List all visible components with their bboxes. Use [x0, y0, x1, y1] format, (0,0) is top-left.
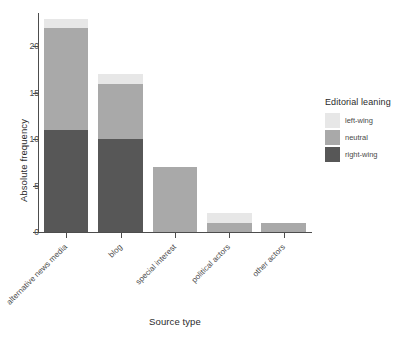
legend-swatch-right-wing [325, 147, 340, 162]
x-tick-label-text: alternative news media [5, 242, 69, 306]
x-tick-mark [175, 233, 176, 238]
bar-group[interactable] [98, 14, 143, 232]
bar-segment-neutral[interactable] [261, 223, 306, 232]
legend: Editorial leaning left-wingneutralright-… [325, 97, 403, 164]
bar-segment-right-wing[interactable] [44, 130, 89, 232]
legend-swatch-left-wing [325, 113, 340, 128]
legend-item[interactable]: left-wing [325, 113, 403, 128]
bar-group[interactable] [153, 14, 198, 232]
bar-group[interactable] [261, 14, 306, 232]
legend-item[interactable]: neutral [325, 130, 403, 145]
y-tick-label: 5 [13, 181, 39, 191]
x-tick-mark [229, 233, 230, 238]
x-tick-label-text: political actors [190, 242, 232, 284]
x-tick-mark [284, 233, 285, 238]
y-axis-title: Absolute frequency [18, 91, 29, 231]
legend-label: left-wing [345, 116, 373, 125]
legend-label: neutral [345, 133, 368, 142]
x-tick-mark [66, 233, 67, 238]
bar-segment-left-wing[interactable] [98, 74, 143, 83]
legend-item[interactable]: right-wing [325, 147, 403, 162]
legend-label: right-wing [345, 150, 378, 159]
bar-group[interactable] [44, 14, 89, 232]
y-tick-label: 10 [13, 134, 39, 144]
bar-group[interactable] [207, 14, 252, 232]
legend-swatch-neutral [325, 130, 340, 145]
bar-segment-neutral[interactable] [207, 223, 252, 232]
bar-segment-left-wing[interactable] [44, 19, 89, 28]
bar-segment-left-wing[interactable] [207, 213, 252, 222]
legend-title: Editorial leaning [325, 97, 403, 107]
bar-segment-neutral[interactable] [44, 28, 89, 130]
y-tick-label: 0 [13, 227, 39, 237]
y-tick-label: 20 [13, 41, 39, 51]
bar-segment-right-wing[interactable] [98, 139, 143, 232]
stacked-bar-chart: Absolute frequency Source type 05101520 … [0, 0, 405, 342]
x-tick-label-text: blog [106, 242, 123, 259]
x-tick-label-text: other actors [251, 242, 287, 278]
x-tick-mark [121, 233, 122, 238]
bar-segment-neutral[interactable] [98, 84, 143, 140]
x-axis-title: Source type [30, 316, 320, 327]
y-tick-label: 15 [13, 88, 39, 98]
x-tick-label-text: special interest [134, 242, 178, 286]
legend-items: left-wingneutralright-wing [325, 113, 403, 162]
bar-segment-neutral[interactable] [153, 167, 198, 232]
